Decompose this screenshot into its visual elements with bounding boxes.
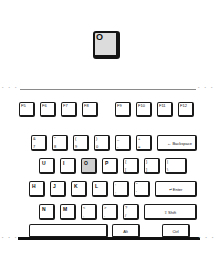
key-k-label: K <box>74 183 78 189</box>
key-minus[interactable]: _ - <box>115 135 131 151</box>
key-backslash-label: \ <box>167 167 168 172</box>
key-equals[interactable]: + = <box>136 135 152 151</box>
keyboard-bottom-edge <box>18 237 200 240</box>
key-p-label: P <box>105 160 108 166</box>
key-quote[interactable]: " ' <box>134 181 150 197</box>
key-k[interactable]: K <box>71 181 87 197</box>
key-l[interactable]: L <box>92 181 108 197</box>
key-f6[interactable]: F6 <box>40 102 56 117</box>
key-ctrl-label: Ctrl <box>172 228 178 233</box>
key-7-shift-label: & <box>33 136 36 141</box>
keyboard-body: • • • • • • F5 F6 F7 F8 F9 F10 F11 F12 <box>0 86 219 252</box>
key-period-label: . <box>104 213 105 218</box>
key-equals-shift-label: + <box>138 136 140 141</box>
key-h[interactable]: H <box>29 181 45 197</box>
key-8-shift-label: * <box>54 136 56 141</box>
key-period-shift-label: > <box>104 205 106 210</box>
key-9-shift-label: ( <box>75 136 76 141</box>
key-0-label: 0 <box>96 144 98 149</box>
key-m[interactable]: M <box>60 204 76 220</box>
key-p[interactable]: P <box>102 158 118 174</box>
key-backspace-label: ← Backspace <box>167 140 192 145</box>
key-enter[interactable]: ↵ Enter <box>155 181 197 197</box>
bottom-edge-dots-right: ▪ ▪ ▪ <box>199 236 215 240</box>
magnified-key-callout: O <box>93 31 120 59</box>
key-f5[interactable]: F5 <box>19 102 35 117</box>
key-n-label: N <box>42 206 46 212</box>
key-f11[interactable]: F11 <box>157 102 173 117</box>
key-slash-shift-label: ? <box>125 205 127 210</box>
key-8[interactable]: * 8 <box>52 135 68 151</box>
key-f10[interactable]: F10 <box>136 102 152 117</box>
key-semicolon-shift-label: : <box>115 182 116 187</box>
key-quote-shift-label: " <box>136 182 137 187</box>
key-f12-label: F12 <box>180 103 187 108</box>
key-m-label: M <box>63 206 67 212</box>
key-space[interactable] <box>29 224 108 238</box>
key-i[interactable]: I <box>60 158 76 174</box>
key-shift-right[interactable]: ⇧ Shift <box>144 204 197 220</box>
key-enter-label: ↵ Enter <box>169 186 183 191</box>
key-comma-label: , <box>83 213 84 218</box>
bottom-edge-dots-left: ▪ ▪ ▪ <box>2 236 18 240</box>
key-f8-label: F8 <box>84 103 89 108</box>
key-alt-label: Alt <box>123 228 128 233</box>
key-u[interactable]: U <box>39 158 55 174</box>
key-comma-shift-label: < <box>83 205 85 210</box>
key-minus-label: - <box>117 144 118 149</box>
key-f10-label: F10 <box>138 103 145 108</box>
key-quote-label: ' <box>136 190 137 195</box>
key-minus-shift-label: _ <box>117 136 119 141</box>
key-f7[interactable]: F7 <box>61 102 77 117</box>
keyboard-diagram: O • • • • • • F5 F6 F7 F8 F9 F10 F11 F12 <box>0 0 219 267</box>
key-bracket-right[interactable]: } ] <box>144 158 160 174</box>
key-f9[interactable]: F9 <box>115 102 131 117</box>
key-semicolon[interactable]: : ; <box>113 181 129 197</box>
key-bracket-right-shift-label: } <box>146 159 147 164</box>
key-7-label: 7 <box>33 144 35 149</box>
key-o[interactable]: O <box>81 158 97 174</box>
key-u-label: U <box>42 160 46 166</box>
key-0-shift-label: ) <box>96 136 97 141</box>
key-bracket-left-label: [ <box>125 167 126 172</box>
top-edge-dots-right: • • • <box>198 86 214 90</box>
key-equals-label: = <box>138 144 140 149</box>
keyboard-top-edge <box>20 89 196 90</box>
magnified-key-label: O <box>96 32 103 42</box>
key-slash-label: / <box>125 213 126 218</box>
key-f6-label: F6 <box>42 103 47 108</box>
key-f11-label: F11 <box>159 103 166 108</box>
key-backslash-shift-label: | <box>167 159 168 164</box>
key-f5-label: F5 <box>21 103 26 108</box>
key-ctrl[interactable]: Ctrl <box>162 224 190 238</box>
key-period[interactable]: > . <box>102 204 118 220</box>
top-edge-dots-left: • • • <box>2 86 18 90</box>
key-f8[interactable]: F8 <box>82 102 98 117</box>
key-j[interactable]: J <box>50 181 66 197</box>
key-comma[interactable]: < , <box>81 204 97 220</box>
key-backspace[interactable]: ← Backspace <box>157 135 197 151</box>
key-f9-label: F9 <box>117 103 122 108</box>
key-backslash[interactable]: | \ <box>165 158 187 174</box>
key-f7-label: F7 <box>63 103 68 108</box>
key-i-label: I <box>63 160 64 166</box>
key-8-label: 8 <box>54 144 56 149</box>
key-n[interactable]: N <box>39 204 55 220</box>
key-9[interactable]: ( 9 <box>73 135 89 151</box>
key-slash[interactable]: ? / <box>123 204 139 220</box>
key-o-label: O <box>84 160 88 166</box>
key-7[interactable]: & 7 <box>31 135 47 151</box>
key-9-label: 9 <box>75 144 77 149</box>
key-f12[interactable]: F12 <box>178 102 194 117</box>
key-shift-right-label: ⇧ Shift <box>164 209 176 214</box>
key-l-label: L <box>95 183 98 189</box>
key-bracket-left-shift-label: { <box>125 159 126 164</box>
key-bracket-left[interactable]: { [ <box>123 158 139 174</box>
key-h-label: H <box>32 183 36 189</box>
key-bracket-right-label: ] <box>146 167 147 172</box>
key-alt[interactable]: Alt <box>112 224 140 238</box>
key-0[interactable]: ) 0 <box>94 135 110 151</box>
key-j-label: J <box>53 183 56 189</box>
key-semicolon-label: ; <box>115 190 116 195</box>
